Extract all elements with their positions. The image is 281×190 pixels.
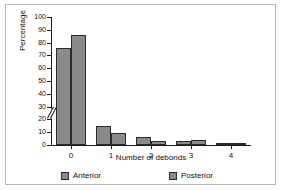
legend-swatch-icon (169, 172, 177, 180)
y-axis-tick-label: 80 (38, 38, 46, 47)
chart-legend: AnteriorPosterior (51, 171, 251, 183)
bar-posterior-1 (111, 133, 126, 145)
y-axis-tick-label: 60 (38, 63, 46, 72)
y-axis-tick (47, 17, 51, 18)
y-axis-tick (47, 132, 51, 133)
legend-label: Posterior (181, 171, 213, 181)
y-axis-tick-label: 10 (38, 127, 46, 136)
y-axis-tick-label: 90 (38, 25, 46, 34)
x-axis-tick (231, 145, 232, 149)
y-axis-tick-label: 50 (38, 76, 46, 85)
figure-frame: Percentage 0102030405060708090100 01234 … (5, 4, 276, 185)
y-axis-line (51, 17, 52, 145)
bar-anterior-3 (176, 141, 191, 145)
y-axis-tick-label: 100 (34, 12, 46, 21)
bar-anterior-2 (136, 137, 151, 145)
x-axis-tick (71, 145, 72, 149)
plot-area: 0102030405060708090100 01234 (51, 17, 251, 145)
y-axis-tick (47, 30, 51, 31)
y-axis-tick (47, 68, 51, 69)
y-axis-tick (47, 145, 51, 146)
bar-anterior-0 (56, 48, 71, 145)
y-axis-tick (47, 81, 51, 82)
y-axis-tick (47, 43, 51, 44)
chart-figure: Percentage 0102030405060708090100 01234 … (0, 0, 281, 190)
legend-swatch-icon (61, 172, 69, 180)
y-axis-tick-label: 20 (38, 114, 46, 123)
legend-item-posterior: Posterior (169, 171, 213, 181)
y-axis-tick (47, 55, 51, 56)
y-axis-tick (47, 94, 51, 95)
x-axis-title: Number of debonds (51, 153, 251, 163)
y-axis-tick-label: 30 (38, 102, 46, 111)
bar-posterior-2 (151, 141, 166, 145)
bar-posterior-0 (71, 35, 86, 145)
y-axis-tick-label: 70 (38, 50, 46, 59)
x-axis-tick (151, 145, 152, 149)
legend-label: Anterior (73, 171, 101, 181)
y-axis-title: Percentage (18, 10, 27, 51)
bar-anterior-1 (96, 126, 111, 145)
y-axis-tick-label: 0 (42, 140, 46, 149)
x-axis-tick (111, 145, 112, 149)
y-axis-tick-label: 40 (38, 89, 46, 98)
x-axis-tick (191, 145, 192, 149)
bar-anterior-4 (216, 143, 231, 145)
legend-item-anterior: Anterior (61, 171, 101, 181)
bar-posterior-3 (191, 140, 206, 145)
bar-posterior-4 (231, 143, 246, 145)
